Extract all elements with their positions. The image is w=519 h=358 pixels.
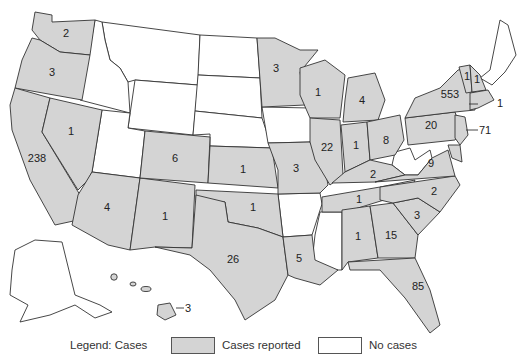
label-in: 1: [353, 139, 359, 151]
label-il: 22: [321, 141, 333, 153]
label-nm: 1: [162, 210, 168, 222]
label-ky: 2: [370, 168, 376, 180]
legend-label-no-cases: No cases: [369, 339, 417, 351]
state-florida: [348, 258, 440, 333]
state-north-dakota: [198, 35, 260, 78]
label-ca: 238: [28, 152, 46, 164]
label-ma: 1: [497, 97, 503, 109]
label-ny: 553: [441, 88, 459, 100]
label-nh: 1: [474, 73, 480, 85]
hawaii-island-oahu: [130, 282, 136, 286]
label-ks: 1: [240, 163, 246, 175]
label-co: 6: [172, 152, 178, 164]
state-massachusetts: [470, 90, 494, 110]
label-oh: 8: [383, 134, 389, 146]
label-ga: 15: [385, 229, 397, 241]
legend-item-cases: Cases reported: [171, 336, 301, 354]
label-nv: 1: [68, 125, 74, 137]
state-wyoming: [128, 80, 198, 135]
hawaii-island-kauai: [111, 274, 117, 280]
label-al: 1: [355, 230, 361, 242]
state-hawaii: [157, 303, 176, 320]
label-az: 4: [104, 201, 110, 213]
us-map: 2 3 238 1 4 1 6 1 1 26 3 3 5 1 22 4 1 8 …: [0, 0, 519, 358]
label-sc: 3: [414, 209, 420, 221]
legend-item-no-cases: No cases: [318, 336, 417, 354]
label-tn: 1: [356, 193, 362, 205]
legend-title: Legend: Cases: [70, 336, 147, 354]
label-wa: 2: [63, 27, 69, 39]
label-pa: 20: [425, 119, 437, 131]
label-nj: 71: [479, 124, 491, 136]
label-tx: 26: [227, 253, 239, 265]
label-ok: 1: [250, 201, 256, 213]
label-mi: 4: [359, 94, 365, 106]
label-mn: 3: [273, 62, 279, 74]
label-wi: 1: [315, 86, 321, 98]
state-wisconsin: [300, 60, 345, 118]
label-nc: 2: [431, 185, 437, 197]
legend-label-cases: Cases reported: [222, 339, 301, 351]
hawaii-island-maui: [141, 287, 151, 292]
label-va: 9: [428, 157, 434, 169]
label-fl: 85: [412, 280, 424, 292]
label-la: 5: [296, 252, 302, 264]
legend-swatch-cases: [171, 337, 215, 354]
state-iowa: [262, 107, 315, 143]
state-alaska: [10, 240, 112, 322]
state-south-dakota: [195, 75, 262, 118]
label-vt: 1: [464, 70, 470, 82]
label-mo: 3: [293, 162, 299, 174]
state-maine: [480, 20, 516, 85]
legend-swatch-no-cases: [318, 337, 362, 354]
state-arkansas: [278, 193, 322, 237]
label-hi: 3: [185, 302, 191, 314]
label-or: 3: [49, 66, 55, 78]
